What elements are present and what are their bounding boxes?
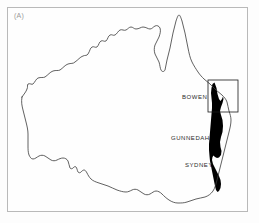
eastern-coal-basin-shape <box>209 83 224 193</box>
australia-map <box>0 0 259 223</box>
map-label-gunnedah: GUNNEDAH <box>171 135 210 141</box>
map-label-sydney: SYDNEY <box>185 162 213 168</box>
map-label-bowen: BOWEN <box>182 94 207 100</box>
australia-coastline-path <box>22 15 231 203</box>
figure-root: (A) BOWEN GUNNEDAH SYDNEY <box>0 0 259 223</box>
